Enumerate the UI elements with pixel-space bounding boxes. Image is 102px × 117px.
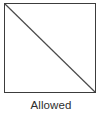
figure-caption: Allowed (0, 98, 102, 113)
diagonal-line-icon (5, 4, 95, 92)
square-diagonal-svg (5, 4, 95, 92)
allowed-shape-figure: Allowed (0, 0, 102, 117)
square-outline (4, 3, 96, 93)
